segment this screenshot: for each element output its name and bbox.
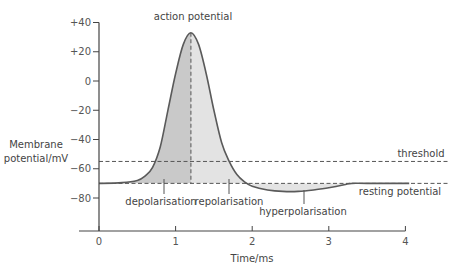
x-tick-label: 2 [249, 236, 255, 247]
phase-fills [122, 0, 352, 203]
y-tick-label: −40 [70, 134, 91, 145]
y-tick-label: −60 [70, 163, 91, 174]
hyperpolarisation-label: hyperpolarisation [259, 206, 347, 217]
threshold-label: threshold [397, 148, 444, 159]
action-potential-chart: +40+200−20−40−60−8001234 Membrane potent… [0, 0, 461, 271]
depolarisation-fill [122, 0, 191, 183]
y-tick-label: 0 [85, 76, 91, 87]
action-potential-label: action potential [154, 11, 232, 22]
y-axis-label-line1: Membrane [9, 139, 63, 150]
axis-ticks: +40+200−20−40−60−8001234 [70, 17, 409, 247]
x-tick-label: 4 [402, 236, 408, 247]
reference-lines [99, 33, 448, 184]
y-tick-label: +20 [70, 46, 91, 57]
y-tick-label: −80 [70, 193, 91, 204]
y-tick-label: +40 [70, 17, 91, 28]
repolarisation-fill [191, 0, 252, 183]
x-tick-label: 3 [326, 236, 332, 247]
x-tick-label: 1 [172, 236, 178, 247]
y-tick-label: −20 [70, 105, 91, 116]
y-axis-label-line2: potential/mV [4, 153, 69, 164]
repolarisation-label: repolarisation [195, 196, 264, 207]
x-axis-label: Time/ms [230, 253, 274, 264]
x-tick-label: 0 [96, 236, 102, 247]
membrane-potential-curve [99, 33, 409, 192]
resting-potential-label: resting potential [359, 186, 441, 197]
depolarisation-label: depolarisation [125, 196, 196, 207]
